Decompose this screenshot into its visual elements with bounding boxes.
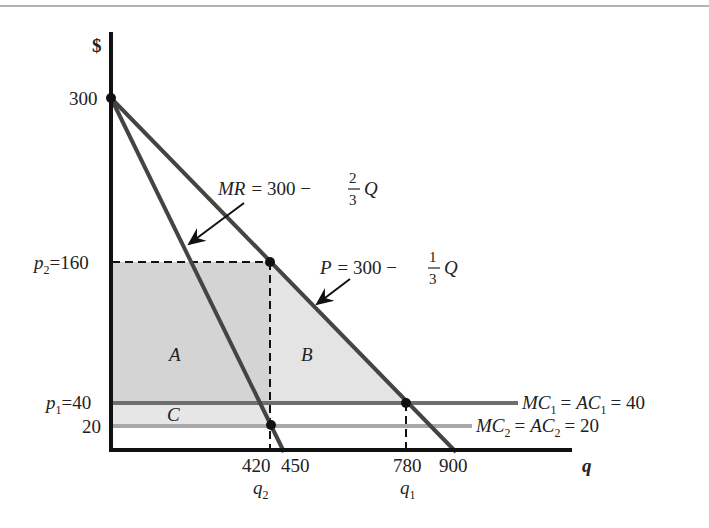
demand-frac-num: 1: [429, 249, 437, 265]
mc1-label: MC1=AC1= 40: [521, 392, 645, 417]
mr-frac-den: 3: [349, 192, 357, 208]
demand-arrow: [317, 279, 350, 304]
x-tick-420: 420: [242, 455, 271, 476]
region-c-shade: [112, 403, 270, 426]
mr-equation: MR= 300 −: [217, 178, 311, 199]
point-monopoly-price: [265, 257, 275, 267]
demand-frac-den: 3: [429, 271, 437, 287]
x-axis-label: q: [582, 455, 592, 476]
y-tick-p2: p2=160: [32, 252, 89, 277]
mc2-label: MC2=AC2= 20: [475, 415, 599, 440]
point-intercept-300: [106, 93, 116, 103]
x-tick-900: 900: [439, 455, 468, 476]
region-b-label: B: [301, 344, 313, 365]
x-sublabel-q2: q2: [253, 477, 269, 502]
mr-frac-num: 2: [349, 170, 357, 186]
monopoly-diagram: $ q 300 p2=160 p1=40 20 420 450 780 900 …: [0, 0, 709, 528]
x-sublabel-q1: q1: [400, 477, 416, 502]
point-mr-mc2: [266, 420, 276, 430]
point-competitive-eq: [401, 398, 411, 408]
x-tick-780: 780: [393, 455, 422, 476]
demand-var: Q: [444, 257, 458, 278]
region-a-shade: [112, 262, 270, 403]
x-tick-450: 450: [281, 455, 310, 476]
region-a-label: A: [167, 344, 181, 365]
region-c-label: C: [167, 404, 180, 425]
mr-var: Q: [364, 178, 378, 199]
demand-equation: P= 300 −: [319, 257, 397, 278]
y-axis-label: $: [92, 35, 102, 56]
y-tick-300: 300: [69, 88, 98, 109]
y-tick-20: 20: [82, 416, 101, 437]
y-tick-p1: p1=40: [44, 392, 91, 417]
